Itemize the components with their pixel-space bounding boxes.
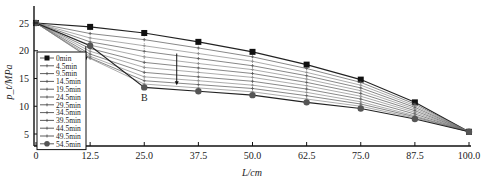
square-marker bbox=[250, 49, 256, 55]
circle-marker bbox=[195, 88, 201, 94]
x-tick-label: 50.0 bbox=[244, 150, 262, 161]
x-tick-label: 0 bbox=[34, 150, 39, 161]
legend: 0min4.5min9.5min14.5min19.5min24.5min29.… bbox=[37, 52, 86, 150]
y-tick-label: 5 bbox=[24, 129, 29, 140]
y-tick-label: 20 bbox=[19, 45, 29, 56]
x-axis-label: L/cm bbox=[241, 167, 262, 178]
x-tick-label: 12.5 bbox=[81, 150, 99, 161]
y-tick-label: 10 bbox=[19, 101, 29, 112]
square-marker bbox=[87, 24, 93, 30]
legend-label: 54.5min bbox=[56, 140, 81, 149]
plot-area: B bbox=[33, 20, 472, 135]
square-marker bbox=[141, 30, 147, 36]
x-tick-label: 62.5 bbox=[298, 150, 316, 161]
pressure-distribution-chart: B 510152025012.525.037.550.062.575.087.5… bbox=[0, 0, 487, 182]
end-marker bbox=[467, 129, 472, 134]
square-marker bbox=[304, 62, 310, 68]
circle-marker bbox=[141, 84, 147, 90]
circle-marker bbox=[249, 92, 255, 98]
circle-marker bbox=[303, 99, 309, 105]
x-tick-label: 25.0 bbox=[136, 150, 154, 161]
circle-marker bbox=[87, 43, 93, 49]
series-29.5min bbox=[35, 22, 471, 134]
x-tick-label: 75.0 bbox=[352, 150, 370, 161]
x-tick-label: 37.5 bbox=[190, 150, 208, 161]
y-axis-label: p_t/MPa bbox=[3, 65, 14, 101]
annotation-label: B bbox=[141, 92, 148, 103]
circle-marker bbox=[358, 105, 364, 111]
circle-marker bbox=[412, 116, 418, 122]
square-marker bbox=[195, 39, 201, 45]
y-tick-label: 15 bbox=[19, 73, 29, 84]
x-tick-label: 87.5 bbox=[406, 150, 424, 161]
x-tick-label: 100.0 bbox=[458, 150, 481, 161]
y-tick-label: 25 bbox=[19, 18, 29, 29]
